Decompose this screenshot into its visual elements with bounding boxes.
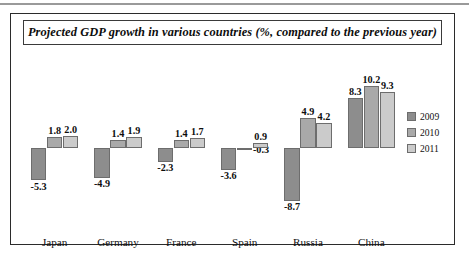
bar-group-spain: -3.6-0.30.9 xyxy=(213,50,276,218)
bar-germany-2011 xyxy=(126,137,142,148)
legend-swatch-2011 xyxy=(407,144,416,153)
x-tick-france: France xyxy=(150,236,213,248)
legend-item-2009[interactable]: 2009 xyxy=(407,110,459,123)
bar-label-japan-2009: -5.3 xyxy=(29,182,48,192)
chart-title: Projected GDP growth in various countrie… xyxy=(28,25,437,40)
bar-group-germany: -4.91.41.9 xyxy=(86,50,149,218)
legend-item-2010[interactable]: 2010 xyxy=(407,126,459,139)
bar-france-2009 xyxy=(158,148,174,162)
x-tick-russia: Russia xyxy=(276,236,339,248)
bar-group-china: 8.310.29.3 xyxy=(340,50,403,218)
bar-russia-2011 xyxy=(316,123,332,148)
legend-label-2010: 2010 xyxy=(420,127,439,138)
chart-title-box: Projected GDP growth in various countrie… xyxy=(23,20,442,45)
bar-japan-2010 xyxy=(47,137,63,148)
chart-figure-frame: Projected GDP growth in various countrie… xyxy=(10,13,455,245)
x-tick-spain: Spain xyxy=(213,236,276,248)
bar-label-china-2009: 8.3 xyxy=(346,87,365,97)
bar-china-2009 xyxy=(348,98,364,148)
legend-swatch-2009 xyxy=(407,112,416,121)
bar-group-russia: -8.74.94.2 xyxy=(276,50,339,218)
bar-label-russia-2009: -8.7 xyxy=(283,202,302,212)
bar-label-russia-2011: 4.2 xyxy=(315,112,334,122)
bar-label-france-2011: 1.7 xyxy=(188,127,207,137)
bar-china-2010 xyxy=(364,86,380,148)
bar-japan-2011 xyxy=(63,136,79,148)
x-tick-japan: Japan xyxy=(23,236,86,248)
bar-label-spain-2009: -3.6 xyxy=(219,171,238,181)
x-tick-germany: Germany xyxy=(86,236,149,248)
bar-spain-2011 xyxy=(253,143,269,148)
bar-label-japan-2011: 2.0 xyxy=(61,125,80,135)
bar-label-france-2009: -2.3 xyxy=(156,163,175,173)
bar-germany-2009 xyxy=(94,148,110,178)
legend-label-2011: 2011 xyxy=(420,143,439,154)
bar-spain-2010 xyxy=(237,148,253,150)
bar-japan-2009 xyxy=(31,148,47,180)
bar-label-china-2011: 9.3 xyxy=(378,81,397,91)
bar-group-france: -2.31.41.7 xyxy=(150,50,213,218)
bar-france-2010 xyxy=(174,140,190,148)
bar-label-germany-2009: -4.9 xyxy=(93,179,112,189)
legend-swatch-2010 xyxy=(407,128,416,137)
chart-plot-area: -5.31.82.0-4.91.41.9-2.31.41.7-3.6-0.30.… xyxy=(23,50,403,218)
bar-russia-2010 xyxy=(300,118,316,148)
bar-label-spain-2011: 0.9 xyxy=(251,132,270,142)
bar-spain-2009 xyxy=(221,148,237,170)
bar-group-japan: -5.31.82.0 xyxy=(23,50,86,218)
bar-germany-2010 xyxy=(110,140,126,148)
bar-label-germany-2011: 1.9 xyxy=(125,126,144,136)
legend-item-2011[interactable]: 2011 xyxy=(407,142,459,155)
chart-legend: 200920102011 xyxy=(407,110,459,158)
bar-france-2011 xyxy=(190,138,206,148)
bar-russia-2009 xyxy=(284,148,300,201)
bar-china-2011 xyxy=(380,92,396,148)
top-rule xyxy=(0,3,469,5)
legend-label-2009: 2009 xyxy=(420,111,439,122)
chart-x-axis: JapanGermanyFranceSpainRussiaChina xyxy=(23,236,403,252)
x-tick-china: China xyxy=(340,236,403,248)
